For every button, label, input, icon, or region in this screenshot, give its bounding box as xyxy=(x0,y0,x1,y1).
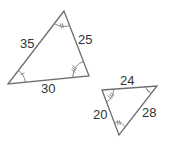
angle-tick xyxy=(117,121,118,126)
triangle-small: 24 20 28 xyxy=(93,73,157,135)
similar-triangles-diagram: 35 25 30 24 20 28 xyxy=(0,0,178,143)
side-label-35: 35 xyxy=(20,36,34,51)
angle-tick xyxy=(63,23,64,28)
side-label-30: 30 xyxy=(41,81,55,96)
side-label-20: 20 xyxy=(93,107,107,122)
angle-arc-top-right xyxy=(146,87,152,94)
angle-arc-bottom-left xyxy=(18,71,25,83)
angle-tick xyxy=(61,24,62,29)
triangle-large: 35 25 30 xyxy=(8,11,92,96)
angle-tick xyxy=(120,121,121,126)
side-label-28: 28 xyxy=(142,105,156,120)
side-label-25: 25 xyxy=(78,32,92,47)
side-label-24: 24 xyxy=(120,73,134,88)
